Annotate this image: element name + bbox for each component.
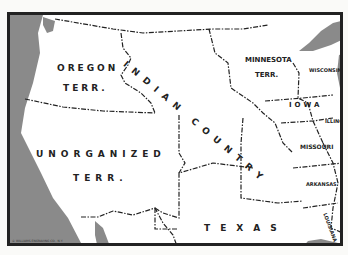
label-minnesota: MINNESOTA (245, 56, 292, 64)
label-illinois: ILLINOIS (325, 118, 343, 124)
label-unorganized-terr: TERR. (73, 173, 128, 183)
pacific-ocean (10, 15, 83, 246)
label-minnesota-terr: TERR. (255, 71, 278, 79)
label-missouri: MISSOURI (300, 143, 333, 150)
label-arkansas: ARKANSAS (306, 181, 337, 187)
label-unorganized: UNORGANIZED (36, 149, 166, 159)
map-shapes (10, 15, 343, 246)
label-oregon: OREGON (57, 63, 118, 73)
map-frame: OREGON TERR. UNORGANIZED TERR. INDIAN CO… (7, 12, 343, 246)
label-texas: TEXAS (204, 223, 287, 233)
credit-text: © WILLIAMS ENGRAVING CO., N.Y. (12, 239, 63, 243)
label-wisconsin: WISCONSIN (309, 67, 342, 73)
label-iowa: IOWA (289, 101, 322, 109)
label-oregon-terr: TERR. (63, 83, 108, 93)
